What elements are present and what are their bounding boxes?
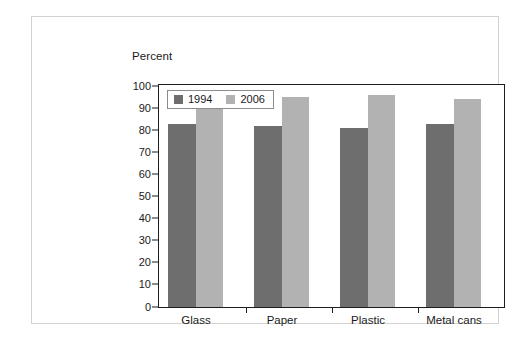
x-tick-mark [418, 308, 419, 313]
x-axis-category-labels: GlassPaperPlasticMetal cans [158, 314, 505, 332]
plot-frame: 19942006 [158, 84, 505, 308]
plot-area [159, 85, 504, 307]
chart-legend: 19942006 [167, 90, 274, 109]
y-axis-tick-labels: 0102030405060708090100 [126, 84, 151, 308]
legend-swatch-icon [174, 95, 183, 104]
x-tick-mark [246, 308, 247, 313]
bar-plastic-2006 [368, 95, 396, 307]
legend-label: 2006 [240, 94, 264, 105]
y-axis-tick-marks [151, 84, 158, 308]
bar-metal-cans-2006 [454, 99, 482, 307]
y-tick-label: 20 [139, 256, 151, 268]
x-label-plastic: Plastic [351, 314, 385, 326]
y-tick-label: 60 [139, 168, 151, 180]
legend-swatch-icon [226, 95, 235, 104]
bar-glass-2006 [196, 97, 224, 307]
legend-item-1994: 1994 [174, 94, 212, 105]
x-tick-mark [332, 308, 333, 313]
x-label-metal-cans: Metal cans [426, 314, 482, 326]
bar-metal-cans-1994 [426, 124, 454, 307]
y-tick-label: 100 [133, 80, 151, 92]
y-tick-label: 10 [139, 278, 151, 290]
legend-label: 1994 [188, 94, 212, 105]
y-axis-caption: Percent [132, 50, 172, 62]
x-label-paper: Paper [267, 314, 298, 326]
bar-paper-1994 [254, 126, 282, 307]
x-label-glass: Glass [181, 314, 210, 326]
y-tick-label: 30 [139, 234, 151, 246]
bar-paper-2006 [282, 97, 310, 307]
bar-plastic-1994 [340, 128, 368, 307]
bar-glass-1994 [168, 124, 196, 307]
y-tick-label: 50 [139, 190, 151, 202]
y-tick-label: 90 [139, 102, 151, 114]
y-tick-label: 70 [139, 146, 151, 158]
y-tick-label: 80 [139, 124, 151, 136]
y-tick-label: 40 [139, 212, 151, 224]
legend-item-2006: 2006 [226, 94, 264, 105]
figure-card: Percent 0102030405060708090100 19942006 … [31, 16, 499, 324]
